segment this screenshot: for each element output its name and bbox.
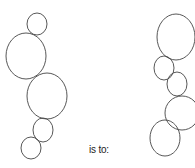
left-circle-2 (6, 33, 46, 79)
right-circle-1 (157, 14, 195, 60)
right-circle-4 (165, 96, 195, 130)
left-circle-figure (6, 13, 67, 159)
right-circle-figure (150, 14, 195, 156)
left-circle-1 (27, 13, 47, 35)
analogy-connector-text: is to: (89, 144, 109, 155)
right-circle-3 (167, 72, 187, 96)
left-circle-3 (27, 73, 67, 119)
analogy-diagram (0, 0, 195, 168)
left-circle-5 (21, 137, 41, 159)
right-circle-5 (150, 120, 180, 156)
right-circle-2 (154, 56, 174, 80)
